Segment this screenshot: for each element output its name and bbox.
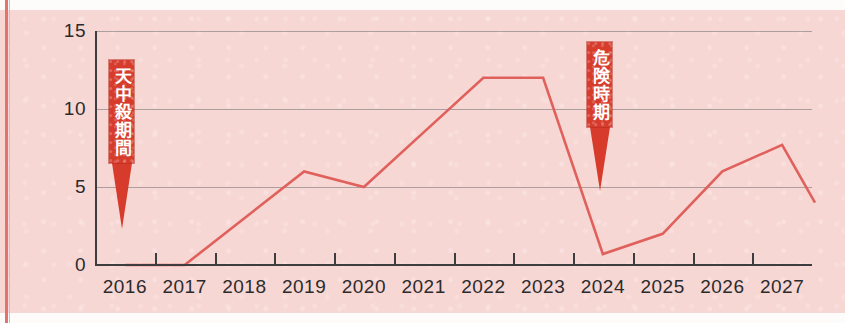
annotation-pin-label: 天中殺期間 bbox=[109, 60, 135, 163]
x-tick-8 bbox=[573, 253, 575, 266]
x-tick-1 bbox=[155, 253, 157, 266]
line-series bbox=[95, 31, 812, 265]
y-tick-label-10: 10 bbox=[64, 98, 86, 120]
x-tick-label-2016: 2016 bbox=[103, 276, 147, 298]
paper-bottom-margin bbox=[0, 313, 845, 323]
annotation-pin-label: 危険時期 bbox=[587, 42, 613, 127]
x-tick-label-2024: 2024 bbox=[581, 276, 625, 298]
x-tick-label-2025: 2025 bbox=[640, 276, 684, 298]
x-tick-7 bbox=[513, 253, 515, 266]
plot-area bbox=[95, 31, 812, 265]
x-tick-9 bbox=[633, 253, 635, 266]
left-margin-rule bbox=[5, 0, 8, 323]
y-tick-label-0: 0 bbox=[75, 254, 86, 276]
x-tick-2 bbox=[215, 253, 217, 266]
chart-page: 051015 201620172018201920202021202220232… bbox=[0, 0, 845, 323]
x-tick-4 bbox=[334, 253, 336, 266]
y-tick-label-15: 15 bbox=[64, 20, 86, 42]
x-tick-label-2026: 2026 bbox=[700, 276, 744, 298]
x-tick-3 bbox=[274, 253, 276, 266]
x-tick-10 bbox=[693, 253, 695, 266]
annotation-pin-tenchusatsu-period: 天中殺期間 bbox=[109, 60, 135, 229]
x-tick-label-2021: 2021 bbox=[401, 276, 445, 298]
annotation-pin-tail bbox=[590, 127, 610, 191]
x-tick-label-2018: 2018 bbox=[222, 276, 266, 298]
x-axis-tick-labels: 2016201720182019202020212022202320242025… bbox=[95, 276, 812, 306]
x-tick-label-2022: 2022 bbox=[461, 276, 505, 298]
y-axis bbox=[95, 31, 97, 266]
left-margin-rule-secondary bbox=[9, 0, 10, 323]
y-axis-tick-labels: 051015 bbox=[30, 31, 86, 265]
annotation-pin-dangerous-period: 危険時期 bbox=[587, 42, 613, 191]
x-tick-label-2023: 2023 bbox=[521, 276, 565, 298]
y-tick-label-5: 5 bbox=[75, 176, 86, 198]
x-tick-5 bbox=[394, 253, 396, 266]
x-tick-label-2017: 2017 bbox=[162, 276, 206, 298]
annotation-pin-tail bbox=[112, 163, 132, 229]
x-tick-label-2027: 2027 bbox=[760, 276, 804, 298]
x-tick-label-2019: 2019 bbox=[282, 276, 326, 298]
x-tick-label-2020: 2020 bbox=[342, 276, 386, 298]
x-tick-6 bbox=[454, 253, 456, 266]
x-tick-11 bbox=[752, 253, 754, 266]
